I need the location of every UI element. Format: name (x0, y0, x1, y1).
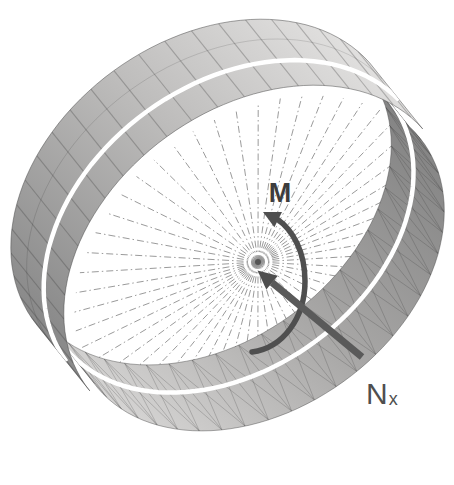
axial-force-label-subscript: x (389, 389, 398, 409)
fem-cylinder-figure: M Nx (0, 0, 454, 485)
axial-force-label: Nx (366, 377, 398, 410)
hub-node (255, 259, 261, 265)
moment-label: M (269, 178, 292, 208)
figure-canvas: M Nx (0, 0, 454, 485)
axial-force-label-main: N (366, 377, 388, 410)
